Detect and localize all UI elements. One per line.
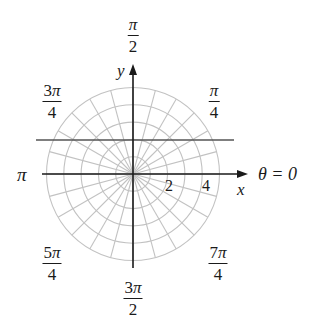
- angle-label-pi: π: [17, 165, 27, 184]
- angle-label-7pi-over-4: 7π 4: [208, 244, 227, 283]
- tick-label-4: 4: [202, 178, 210, 194]
- y-axis-arrowhead-icon: [129, 64, 137, 75]
- y-axis-label: y: [117, 62, 125, 79]
- x-axis-label: x: [237, 181, 245, 198]
- tick-label-2: 2: [165, 178, 173, 194]
- x-axis-arrowhead-icon: [237, 170, 248, 178]
- polar-axis-label: θ = 0: [258, 165, 297, 183]
- angle-label-pi-over-2: π 2: [128, 16, 139, 55]
- angle-label-5pi-over-4: 5π 4: [42, 244, 61, 283]
- angle-label-pi-over-4: π 4: [209, 82, 220, 121]
- angle-label-3pi-over-4: 3π 4: [42, 82, 61, 121]
- angle-label-3pi-over-2: 3π 2: [123, 279, 142, 318]
